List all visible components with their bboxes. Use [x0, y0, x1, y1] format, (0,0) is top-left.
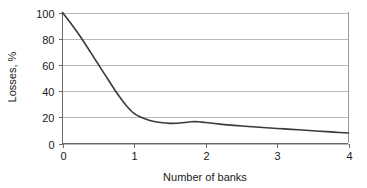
y-tick-label: 100 [36, 8, 54, 20]
y-tick-label: 40 [42, 86, 54, 98]
y-axis-title: Losses, % [6, 51, 18, 102]
y-tick-label: 0 [48, 139, 54, 151]
x-tick-label: 1 [131, 150, 137, 162]
x-axis-title: Number of banks [163, 171, 247, 183]
x-tick-label: 4 [346, 150, 352, 162]
chart-container: 020406080100 01234 Number of banks Losse… [0, 0, 367, 188]
x-tick-label: 3 [274, 150, 280, 162]
y-tick-label: 60 [42, 60, 54, 72]
chart-background [0, 0, 367, 188]
line-chart: 020406080100 01234 Number of banks Losse… [0, 0, 367, 188]
x-tick-label: 0 [60, 150, 66, 162]
y-tick-label: 80 [42, 34, 54, 46]
x-tick-label: 2 [203, 150, 209, 162]
y-tick-label: 20 [42, 112, 54, 124]
